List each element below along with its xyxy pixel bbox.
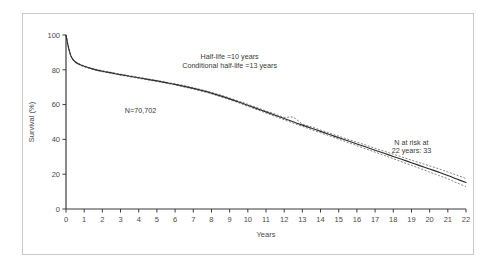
survival-chart: 0204060801000123456789101112131415161718…	[0, 0, 493, 268]
x-tick-label: 19	[407, 215, 415, 224]
x-tick-label: 3	[118, 215, 122, 224]
x-tick-label: 4	[137, 215, 141, 224]
annotation-half-life: Half-life =10 years	[201, 52, 260, 61]
x-axis-title: Years	[257, 230, 276, 239]
y-tick-label: 40	[52, 135, 60, 144]
x-tick-label: 14	[316, 215, 324, 224]
x-tick-label: 10	[244, 215, 252, 224]
x-tick-label: 21	[444, 215, 452, 224]
x-tick-label: 8	[209, 215, 213, 224]
y-tick-label: 0	[56, 205, 60, 214]
annotation-at-risk-line2: 22 years: 33	[392, 146, 432, 155]
figure-root: 0204060801000123456789101112131415161718…	[0, 0, 493, 268]
x-tick-label: 0	[64, 215, 68, 224]
x-tick-label: 11	[262, 215, 270, 224]
x-tick-label: 22	[462, 215, 470, 224]
annotation-at-risk-line1: N at risk at	[394, 138, 428, 147]
x-tick-label: 6	[173, 215, 177, 224]
x-tick-label: 18	[389, 215, 397, 224]
x-tick-label: 5	[155, 215, 159, 224]
y-tick-label: 20	[52, 170, 60, 179]
x-tick-label: 16	[353, 215, 361, 224]
x-tick-label: 7	[191, 215, 195, 224]
x-tick-label: 2	[100, 215, 104, 224]
y-tick-label: 60	[52, 100, 60, 109]
y-tick-label: 80	[52, 66, 60, 75]
x-tick-label: 20	[425, 215, 433, 224]
annotation-sample-size: N=70,702	[125, 106, 156, 115]
annotation-conditional-half-life: Conditional half-life =13 years	[182, 61, 277, 70]
x-tick-label: 1	[82, 215, 86, 224]
y-axis-title: Survival (%)	[27, 101, 36, 142]
y-tick-label: 100	[47, 31, 60, 40]
x-tick-label: 13	[298, 215, 306, 224]
x-tick-label: 15	[335, 215, 343, 224]
x-tick-label: 12	[280, 215, 288, 224]
x-tick-label: 17	[371, 215, 379, 224]
x-tick-label: 9	[228, 215, 232, 224]
